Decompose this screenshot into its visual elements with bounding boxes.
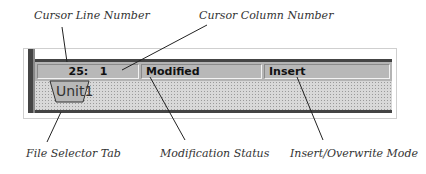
caption-modification-status: Modification Status: [160, 147, 269, 160]
caption-insert-overwrite-mode: Insert/Overwrite Mode: [290, 147, 418, 160]
caption-file-selector-tab: File Selector Tab: [26, 147, 121, 160]
